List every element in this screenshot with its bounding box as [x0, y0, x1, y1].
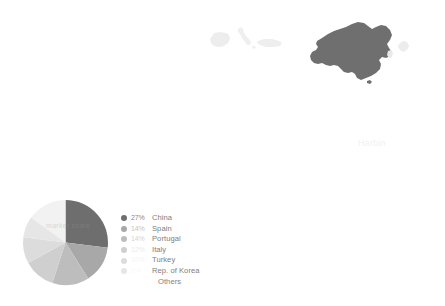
legend-label: Italy: [152, 245, 166, 256]
legend-percent: 10%: [131, 255, 152, 266]
map-region-japan: [398, 41, 409, 52]
legend-percent: 14%: [131, 224, 152, 235]
legend-label: Rep. of Korea: [152, 266, 200, 277]
legend-row[interactable]: Others: [121, 277, 231, 288]
pie-slices: [23, 200, 108, 285]
legend-percent: 27%: [131, 213, 152, 224]
chart-canvas: market share Harbin 27%China14%Spain14%P…: [0, 0, 445, 306]
legend-swatch-icon: [121, 258, 127, 264]
legend-label: Others: [152, 277, 181, 288]
map-region-italy: [238, 27, 256, 49]
legend-percent: 14%: [131, 234, 152, 245]
legend-swatch-icon: [121, 236, 127, 242]
pie-legend: 27%China14%Spain14%Portugal12%Italy10%Tu…: [121, 213, 231, 287]
pie-chart: [20, 197, 112, 289]
legend-swatch-icon: [121, 215, 127, 221]
map-region-turkey: [257, 39, 282, 47]
legend-row[interactable]: 27%China: [121, 213, 231, 224]
pie-chart-svg: [20, 197, 112, 289]
legend-label: China: [152, 213, 172, 224]
legend-percent: 12%: [131, 245, 152, 256]
map-region-china-hainan: [367, 80, 372, 84]
map-region-korea: [387, 50, 393, 58]
pie-ghost-label: market share: [46, 222, 90, 229]
legend-swatch-icon: [121, 247, 127, 253]
map-region-china: [310, 22, 392, 80]
legend-row[interactable]: 12%Italy: [121, 245, 231, 256]
legend-row[interactable]: 14%Portugal: [121, 234, 231, 245]
legend-label: Portugal: [152, 234, 181, 245]
legend-label: Spain: [152, 224, 172, 235]
legend-swatch-icon: [121, 226, 127, 232]
legend-label: Turkey: [152, 255, 175, 266]
map-region-iberian-peninsula: [210, 32, 230, 47]
legend-percent: 8%: [131, 266, 152, 277]
legend-swatch-icon: [121, 268, 127, 274]
map-ghost-label: Harbin: [358, 138, 386, 148]
legend-row[interactable]: 8%Rep. of Korea: [121, 266, 231, 277]
legend-row[interactable]: 14%Spain: [121, 224, 231, 235]
legend-row[interactable]: 10%Turkey: [121, 255, 231, 266]
